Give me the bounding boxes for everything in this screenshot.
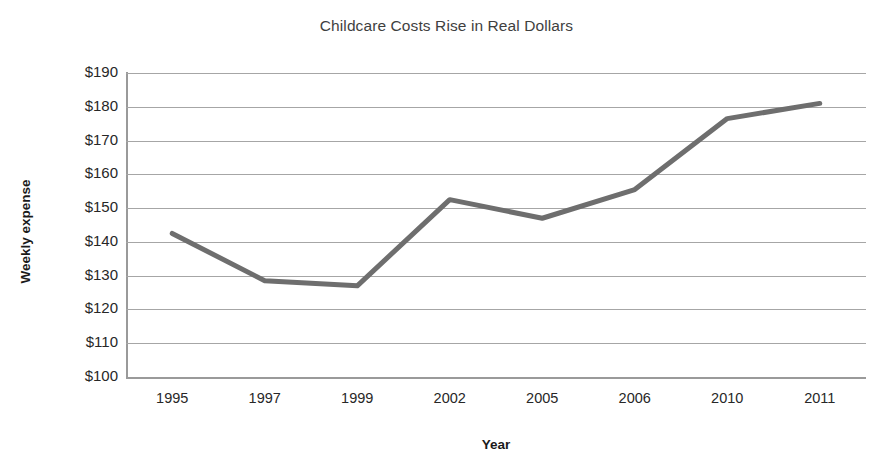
x-tick-label: 2011 [804,390,835,406]
gridline [126,377,866,379]
y-tick-label: $120 [46,299,118,316]
x-tick-label: 2006 [619,390,651,406]
y-tick-label: $180 [46,97,118,114]
x-tick-label: 2005 [526,390,558,406]
data-series-line [126,73,866,377]
y-tick-label: $130 [46,266,118,283]
y-tick-label: $150 [46,198,118,215]
y-tick-label: $100 [46,367,118,384]
line-chart: Childcare Costs Rise in Real Dollars Wee… [0,0,893,474]
x-axis-tick-labels: 19951997199920022005200620102011 [126,390,866,414]
y-axis-tick-labels: $190$180$170$160$150$140$130$120$110$100 [44,73,118,377]
x-tick-label: 1995 [156,390,188,406]
y-tick-label: $140 [46,232,118,249]
chart-title: Childcare Costs Rise in Real Dollars [0,17,893,35]
y-tick-label: $160 [46,164,118,181]
x-tick-label: 2002 [434,390,466,406]
series-weekly-expense [172,103,820,285]
y-tick-label: $170 [46,131,118,148]
x-axis-title: Year [126,437,866,452]
x-tick-label: 1999 [341,390,373,406]
y-axis-title: Weekly expense [18,162,33,302]
x-tick-label: 2010 [711,390,743,406]
x-tick-label: 1997 [249,390,281,406]
y-tick-label: $190 [46,63,118,80]
y-tick-label: $110 [46,333,118,350]
plot-area [126,73,866,377]
